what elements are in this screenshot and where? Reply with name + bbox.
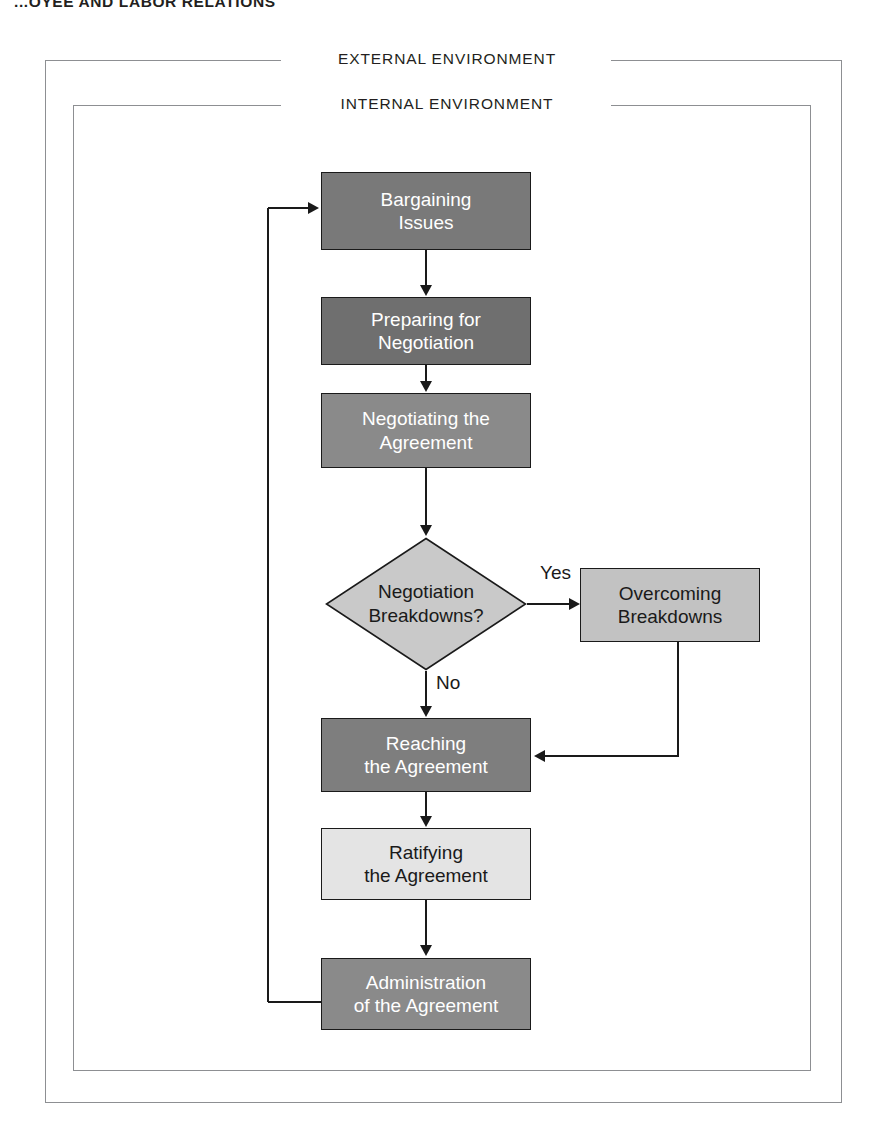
edge-label-no: No	[436, 672, 460, 694]
node-ratifying-the-agreement[interactable]: Ratifyingthe Agreement	[321, 828, 531, 900]
feedback-loop-bottom-segment	[268, 1001, 322, 1003]
running-head: ...OYEE AND LABOR RELATIONS	[14, 0, 276, 11]
node-ratifying-the-agreement-label: Ratifyingthe Agreement	[364, 841, 488, 887]
feedback-loop-arrowhead	[308, 202, 319, 214]
node-bargaining-issues[interactable]: BargainingIssues	[321, 172, 531, 250]
edge-label-yes: Yes	[540, 562, 571, 584]
edge-reaching-to-ratifying-arrowhead	[420, 816, 432, 827]
edge-negotiating-to-decision	[425, 468, 427, 526]
edge-ratifying-to-administration	[425, 900, 427, 946]
edge-overcoming-to-reaching-vertical	[677, 642, 679, 756]
edge-ratifying-to-administration-arrowhead	[420, 945, 432, 956]
edge-decision-yes	[527, 603, 571, 605]
edge-preparing-to-negotiating	[425, 365, 427, 382]
node-reaching-the-agreement[interactable]: Reachingthe Agreement	[321, 718, 531, 792]
node-bargaining-issues-label: BargainingIssues	[381, 188, 472, 234]
edge-overcoming-to-reaching-horizontal	[545, 755, 679, 757]
external-environment-label: EXTERNAL ENVIRONMENT	[287, 50, 607, 68]
node-negotiating-the-agreement[interactable]: Negotiating theAgreement	[321, 393, 531, 468]
node-overcoming-breakdowns-label: OvercomingBreakdowns	[618, 582, 723, 628]
node-preparing-for-negotiation[interactable]: Preparing forNegotiation	[321, 297, 531, 365]
node-administration-of-the-agreement-label: Administrationof the Agreement	[354, 971, 499, 1017]
edge-decision-no-arrowhead	[420, 706, 432, 717]
node-negotiation-breakdowns-decision[interactable]: NegotiationBreakdowns?	[325, 537, 527, 671]
feedback-loop-left-segment	[267, 208, 269, 1002]
edge-reaching-to-ratifying	[425, 792, 427, 817]
internal-environment-label: INTERNAL ENVIRONMENT	[287, 95, 607, 113]
edge-decision-no	[425, 671, 427, 707]
edge-decision-yes-arrowhead	[569, 598, 580, 610]
diagram-page: ...OYEE AND LABOR RELATIONS EXTERNAL ENV…	[0, 0, 886, 1146]
feedback-loop-top-segment	[268, 207, 309, 209]
node-reaching-the-agreement-label: Reachingthe Agreement	[364, 732, 488, 778]
node-administration-of-the-agreement[interactable]: Administrationof the Agreement	[321, 958, 531, 1030]
node-preparing-for-negotiation-label: Preparing forNegotiation	[371, 308, 481, 354]
node-negotiating-the-agreement-label: Negotiating theAgreement	[362, 407, 490, 453]
edge-overcoming-to-reaching-arrowhead	[534, 750, 545, 762]
edge-issues-to-preparing-arrowhead	[420, 285, 432, 296]
edge-issues-to-preparing	[425, 250, 427, 286]
edge-preparing-to-negotiating-arrowhead	[420, 381, 432, 392]
edge-negotiating-to-decision-arrowhead	[420, 525, 432, 536]
node-overcoming-breakdowns[interactable]: OvercomingBreakdowns	[580, 568, 760, 642]
